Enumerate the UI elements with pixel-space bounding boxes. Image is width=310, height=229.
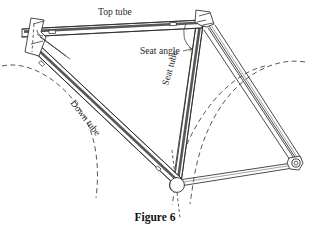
seat-angle-leader xyxy=(183,48,192,52)
figure-container: Top tube Seat angle Seat tube Down tube … xyxy=(0,0,310,229)
figure-caption: Figure 6 xyxy=(135,211,176,224)
top-tube-label: Top tube xyxy=(98,6,132,17)
bicycle-frame-drawing: Top tube Seat angle Seat tube Down tube … xyxy=(0,0,310,229)
seat-stay-tube-inner xyxy=(204,29,296,164)
rear-dropout xyxy=(287,156,303,170)
bottom-bracket-shell xyxy=(169,178,184,193)
seat-stay-tube xyxy=(209,25,301,160)
down-tube xyxy=(28,40,181,185)
chain-stay-tube xyxy=(179,163,293,186)
front-wheel-dashed-arc xyxy=(2,65,97,198)
